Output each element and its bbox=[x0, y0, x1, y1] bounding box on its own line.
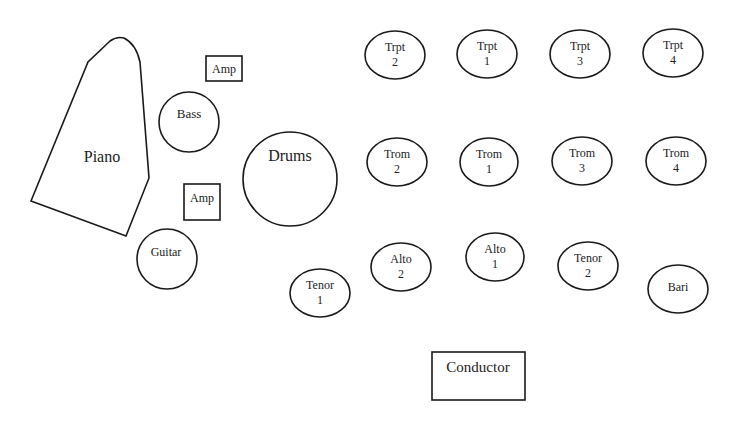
trumpet-name: Trpt bbox=[385, 40, 405, 54]
tenor-1-label: Tenor1 bbox=[306, 278, 334, 308]
trumpet-name: Trpt bbox=[663, 38, 683, 52]
trumpet-number: 1 bbox=[477, 54, 497, 69]
piano-label: Piano bbox=[84, 147, 120, 167]
trombone-number: 2 bbox=[384, 162, 410, 177]
tenor-2-label: Tenor2 bbox=[574, 251, 602, 281]
trombone-number: 1 bbox=[476, 162, 502, 177]
bass-label: Bass bbox=[177, 106, 202, 122]
trumpet-3-label: Trpt3 bbox=[570, 39, 590, 69]
sax-name: Alto bbox=[390, 252, 411, 266]
trombone-1-label: Trom1 bbox=[476, 147, 502, 177]
bari-label: Bari bbox=[668, 280, 689, 295]
trumpet-number: 4 bbox=[663, 53, 683, 68]
trombone-4-label: Trom4 bbox=[663, 146, 689, 176]
sax-name: Bari bbox=[668, 280, 689, 294]
amp-bass-label: Amp bbox=[212, 62, 236, 77]
trombone-number: 3 bbox=[569, 161, 595, 176]
sax-name: Alto bbox=[484, 242, 505, 256]
drums-label: Drums bbox=[268, 146, 312, 166]
trumpet-1-label: Trpt1 bbox=[477, 39, 497, 69]
trumpet-name: Trpt bbox=[570, 39, 590, 53]
trombone-3-label: Trom3 bbox=[569, 146, 595, 176]
trumpet-name: Trpt bbox=[477, 39, 497, 53]
trombone-name: Trom bbox=[663, 146, 689, 160]
guitar-label: Guitar bbox=[151, 245, 182, 260]
alto-1-label: Alto1 bbox=[484, 242, 505, 272]
trombone-name: Trom bbox=[476, 147, 502, 161]
sax-number: 1 bbox=[484, 257, 505, 272]
sax-number: 1 bbox=[306, 293, 334, 308]
trumpet-2-label: Trpt2 bbox=[385, 40, 405, 70]
sax-number: 2 bbox=[390, 267, 411, 282]
sax-number: 2 bbox=[574, 266, 602, 281]
trumpet-number: 2 bbox=[385, 55, 405, 70]
trumpet-4-label: Trpt4 bbox=[663, 38, 683, 68]
amp-guitar-label: Amp bbox=[190, 191, 214, 206]
trombone-number: 4 bbox=[663, 161, 689, 176]
alto-2-label: Alto2 bbox=[390, 252, 411, 282]
sax-name: Tenor bbox=[306, 278, 334, 292]
sax-name: Tenor bbox=[574, 251, 602, 265]
trombone-name: Trom bbox=[384, 147, 410, 161]
conductor-label: Conductor bbox=[446, 358, 509, 377]
stage-diagram bbox=[0, 0, 738, 423]
piano-shape bbox=[31, 37, 149, 236]
trombone-2-label: Trom2 bbox=[384, 147, 410, 177]
trumpet-number: 3 bbox=[570, 54, 590, 69]
trombone-name: Trom bbox=[569, 146, 595, 160]
